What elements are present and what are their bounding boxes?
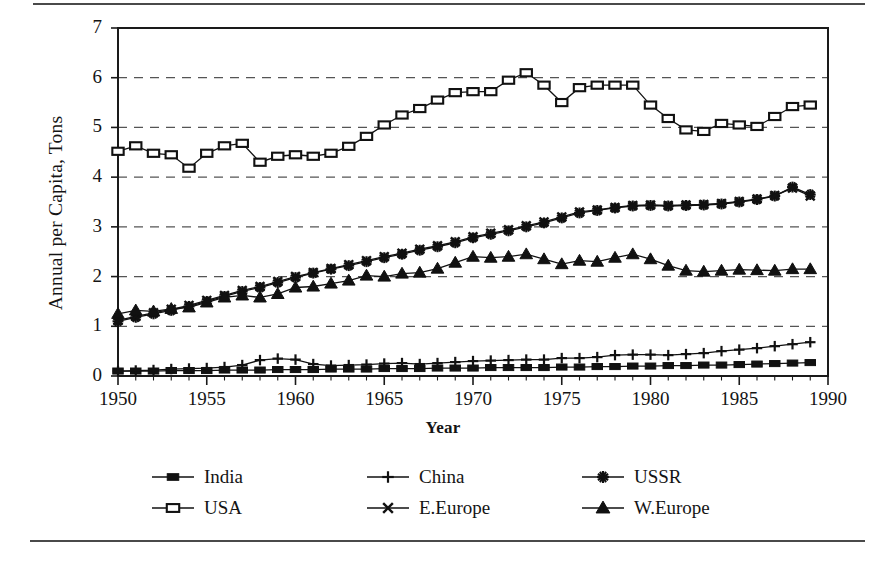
filled-triangle-icon [580, 496, 626, 520]
legend-item-e-europe[interactable]: E.Europe [365, 493, 490, 523]
plus-icon [365, 465, 411, 489]
x-tick-label: 1990 [793, 388, 863, 410]
legend-item-w-europe[interactable]: W.Europe [580, 493, 710, 523]
x-tick-label: 1970 [438, 388, 508, 410]
x-tick-label: 1965 [349, 388, 419, 410]
figure-container: Annual per Capita, Tons Year 01234567 19… [0, 0, 886, 565]
x-tick-label: 1955 [172, 388, 242, 410]
y-axis-label-wrapper: Annual per Capita, Tons [45, 63, 71, 363]
legend-row: IndiaChinaUSSR [150, 462, 750, 492]
y-tick-label: 7 [76, 16, 102, 38]
legend-item-india[interactable]: India [150, 462, 243, 492]
x-tick-label: 1950 [83, 388, 153, 410]
y-tick-label: 5 [76, 115, 102, 137]
y-tick-label: 1 [76, 314, 102, 336]
y-axis-label: Annual per Capita, Tons [45, 116, 66, 311]
series-ussr [113, 182, 816, 327]
legend-row: USAE.EuropeW.Europe [150, 493, 750, 523]
legend-item-usa[interactable]: USA [150, 493, 242, 523]
y-tick-label: 0 [76, 364, 102, 386]
y-tick-label: 3 [76, 215, 102, 237]
y-tick-label: 6 [76, 66, 102, 88]
series-w-europe [112, 248, 817, 318]
legend-label: E.Europe [419, 497, 490, 519]
legend-label: India [204, 466, 243, 488]
legend-label: W.Europe [634, 497, 710, 519]
legend-label: China [419, 466, 464, 488]
open-square-icon [150, 496, 196, 520]
y-tick-label: 2 [76, 265, 102, 287]
y-tick-label: 4 [76, 165, 102, 187]
legend-item-china[interactable]: China [365, 462, 464, 492]
x-tick-label: 1975 [527, 388, 597, 410]
asterisk-icon [580, 465, 626, 489]
x-tick-label: 1980 [616, 388, 686, 410]
cross-icon [365, 496, 411, 520]
chart-legend: IndiaChinaUSSRUSAE.EuropeW.Europe [150, 462, 750, 528]
legend-label: USA [204, 497, 242, 519]
legend-item-ussr[interactable]: USSR [580, 462, 682, 492]
data-series-group [112, 69, 817, 376]
legend-label: USSR [634, 466, 682, 488]
x-axis-label: Year [0, 418, 886, 438]
x-tick-label: 1960 [261, 388, 331, 410]
x-tick-label: 1985 [704, 388, 774, 410]
filled-square-icon [150, 465, 196, 489]
series-usa [112, 69, 816, 172]
